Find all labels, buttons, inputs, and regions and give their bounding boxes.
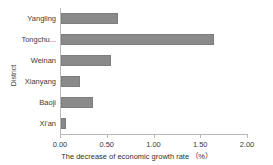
- bar-xianyang: [61, 76, 80, 87]
- bar-series: [61, 8, 247, 134]
- x-tick-2: [154, 134, 155, 138]
- plot-area: [60, 8, 247, 134]
- bar-yangling: [61, 13, 118, 24]
- x-tick-label-4: 2.00: [240, 140, 255, 149]
- bar-slot: [61, 50, 247, 71]
- y-tick-label-yangling: Yangling: [18, 8, 58, 29]
- x-tick-3: [200, 134, 201, 138]
- x-tick-label-2: 1.00: [146, 140, 161, 149]
- y-axis-title-text: District: [11, 64, 18, 85]
- bar-slot: [61, 29, 247, 50]
- bar-chart: District Yangling Tongchu... Weinan Xian…: [0, 0, 273, 165]
- x-tick-label-0: 0.00: [53, 140, 68, 149]
- y-tick-label-baoji: Baoji: [18, 92, 58, 113]
- x-tick-label-1: 0.50: [99, 140, 114, 149]
- x-tick-1: [107, 134, 108, 138]
- y-tick-label-weinan: Weinan: [18, 50, 58, 71]
- y-tick-label-xian: Xi'an: [18, 113, 58, 134]
- bar-xian: [61, 118, 66, 129]
- bar-weinan: [61, 55, 111, 66]
- bar-slot: [61, 8, 247, 29]
- y-tick-label-tongchuan: Tongchu...: [18, 29, 58, 50]
- bar-baoji: [61, 97, 93, 108]
- bar-slot: [61, 71, 247, 92]
- y-axis-tick-labels: Yangling Tongchu... Weinan Xianyang Baoj…: [18, 8, 58, 134]
- bar-slot: [61, 113, 247, 134]
- bar-slot: [61, 92, 247, 113]
- bar-tongchuan: [61, 34, 214, 45]
- x-tick-0: [60, 134, 61, 138]
- y-tick-label-xianyang: Xianyang: [18, 71, 58, 92]
- x-axis-title: The decrease of economic growth rate （%）: [0, 150, 273, 161]
- x-tick-label-3: 1.50: [193, 140, 208, 149]
- x-tick-4: [247, 134, 248, 138]
